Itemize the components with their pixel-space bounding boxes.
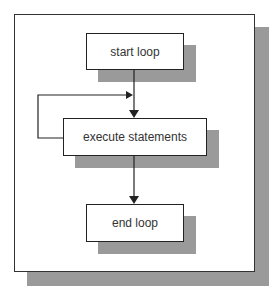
arrowhead-down-icon bbox=[129, 110, 139, 118]
node-label: end loop bbox=[112, 216, 158, 230]
node-label: start loop bbox=[110, 45, 159, 59]
start-loop-node: start loop bbox=[86, 33, 184, 70]
arrowhead-down-icon bbox=[129, 196, 139, 204]
node-label: execute statements bbox=[83, 130, 187, 144]
arrowhead-right-icon bbox=[126, 91, 133, 99]
execute-statements-node: execute statements bbox=[63, 118, 207, 156]
end-loop-node: end loop bbox=[86, 204, 184, 242]
